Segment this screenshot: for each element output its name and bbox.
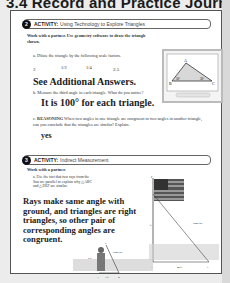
activity2-intro: Work with a partner.: [27, 167, 66, 173]
svg-text:3 ft: 3 ft: [105, 276, 109, 279]
svg-text:x ft: x ft: [149, 224, 152, 227]
page-edge: [222, 0, 230, 283]
part-b-prompt: b. Measure the third angle in each trian…: [33, 90, 213, 96]
svg-text:A: A: [97, 276, 99, 279]
worksheet: 2 ACTIVITY: Using Technology to Explore …: [10, 10, 222, 274]
scale-factor-4: 2.5: [113, 67, 119, 73]
svg-text:Sun's ray: Sun's ray: [193, 222, 203, 225]
part-b-answer: It is 100° for each triangle.: [41, 97, 154, 108]
flagpole-figure: F Sun's ray x ft D 40 ft E: [149, 176, 219, 274]
part-a-answer: See Additional Answers.: [33, 76, 136, 87]
part-a-prompt: a. Dilate the triangle by the following …: [33, 53, 158, 59]
activity-number-badge: 2: [22, 20, 31, 29]
activity1-intro: Work with a partner. Use geometry softwa…: [27, 33, 152, 44]
activity-label: ACTIVITY:: [34, 157, 58, 163]
activity-label: ACTIVITY:: [34, 21, 58, 27]
svg-text:E: E: [207, 266, 209, 269]
activity2-part-a-prompt: a. Use the fact that two rays from the S…: [33, 175, 93, 189]
svg-text:B: B: [169, 81, 172, 86]
svg-text:C: C: [105, 242, 107, 245]
activity-number-badge: 3: [22, 156, 31, 165]
activity-title: Indirect Measurement: [60, 157, 108, 163]
svg-text:5 ft: 5 ft: [88, 257, 92, 260]
scale-factor-2: 1/2: [61, 65, 67, 71]
person-shadow-figure: C Sun's ray 5 ft A 3 ft B: [73, 241, 153, 283]
part-c-answer: yes: [41, 130, 52, 141]
activity-title: Using Technology to Explore Triangles: [60, 21, 145, 27]
scale-factor-1: 2: [33, 67, 36, 73]
activity-header-2: 3 ACTIVITY: Indirect Measurement: [23, 155, 211, 165]
activity2-part-a-answer: Rays make same angle with ground, and tr…: [23, 197, 143, 245]
svg-text:A: A: [184, 58, 187, 63]
svg-text:C: C: [212, 81, 215, 86]
scale-factor-3: 1/4: [86, 65, 92, 71]
activity-header-1: 2 ACTIVITY: Using Technology to Explore …: [23, 19, 211, 29]
svg-text:Sun's ray: Sun's ray: [113, 251, 123, 254]
svg-text:40 ft: 40 ft: [177, 266, 182, 269]
svg-text:B: B: [118, 276, 120, 279]
part-c-prompt: c. REASONING When two angles in one tria…: [33, 116, 203, 127]
